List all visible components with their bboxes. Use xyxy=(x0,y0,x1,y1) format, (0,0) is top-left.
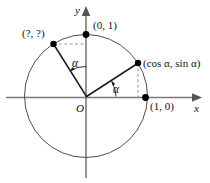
label-y-axis: y xyxy=(74,4,80,16)
point-terminal xyxy=(135,60,141,66)
label-right-point: (1, 0) xyxy=(150,100,174,113)
label-x-axis: x xyxy=(193,102,199,114)
label-top-point: (0, 1) xyxy=(93,19,117,32)
label-angle-upper: α xyxy=(72,57,79,69)
label-origin: O xyxy=(76,102,84,114)
label-unknown-point: (?, ?) xyxy=(22,27,45,40)
label-angle-lower: α xyxy=(113,83,120,95)
point-right xyxy=(142,94,149,101)
ray-to-terminal-point xyxy=(87,64,138,97)
x-axis-arrowhead xyxy=(192,93,202,102)
point-rotated xyxy=(50,41,56,47)
unit-circle-figure: (0, 1) (1, 0) (cos α, sin α) (?, ?) α α … xyxy=(0,0,210,183)
label-terminal-point: (cos α, sin α) xyxy=(143,57,201,70)
y-axis-arrowhead xyxy=(82,6,91,16)
point-top xyxy=(83,31,90,38)
